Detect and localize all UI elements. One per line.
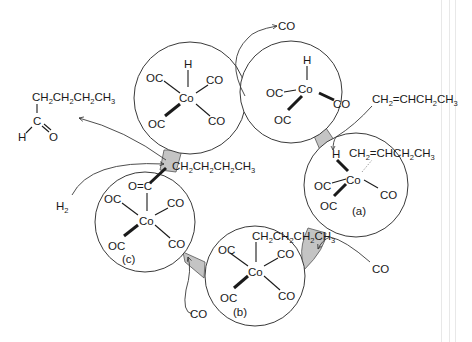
- catalytic-cycle-diagram: H OC CO OC CO Co H OC CO OC Co H CH2=CHC…: [0, 0, 472, 342]
- ligand-co: OC: [274, 114, 291, 126]
- ligand-co: OC: [148, 118, 165, 130]
- cobalt-center: Co: [179, 92, 194, 104]
- ligand-co: CO: [167, 197, 184, 209]
- cobalt-center: Co: [139, 215, 154, 227]
- product-chain: CH2CH2CH2CH3: [32, 91, 115, 106]
- product-carbon: C: [33, 115, 41, 127]
- cobalt-center: Co: [346, 174, 361, 186]
- complex-hco3-circle: [240, 41, 342, 143]
- ligand-co: CO: [206, 74, 223, 86]
- ligand-co: OC: [104, 193, 121, 205]
- complex-label-a: (a): [352, 205, 366, 217]
- ligand-co: OC: [266, 87, 283, 99]
- product-oxygen: O: [49, 131, 58, 143]
- ligand-co: OC: [220, 292, 237, 304]
- acyl-chain: CH2CH2CH2CH3: [172, 160, 255, 175]
- product-aldehyde: CH2CH2CH2CH3 C H O: [18, 91, 115, 143]
- cobalt-center: Co: [298, 83, 313, 95]
- co-released-label: CO: [278, 20, 295, 32]
- connector-b-c: [183, 252, 205, 278]
- co-added-right-label: CO: [372, 263, 389, 275]
- ligand-co: OC: [218, 244, 235, 256]
- ligand-co: CO: [278, 290, 295, 302]
- ligand-co: CO: [168, 238, 185, 250]
- ligand-co: CO: [380, 189, 397, 201]
- acyl-carbonyl: O=C: [128, 180, 152, 192]
- ligand-co: OC: [320, 200, 337, 212]
- ligand-co: CO: [277, 248, 294, 260]
- h2-label: H2: [56, 200, 68, 215]
- product-hydrogen: H: [18, 131, 26, 143]
- ligand-h: H: [184, 58, 192, 70]
- ligand-co: OC: [146, 72, 163, 84]
- ligand-co: OC: [314, 180, 331, 192]
- ligand-co: CO: [333, 98, 350, 110]
- ligand-co: OC: [108, 240, 125, 252]
- complex-label-c: (c): [122, 253, 136, 265]
- complex-label-b: (b): [233, 306, 247, 318]
- cobalt-center: Co: [248, 266, 263, 278]
- butene-label: CH2=CHCH2CH3: [372, 93, 458, 108]
- co-added-bottom-label: CO: [190, 308, 207, 320]
- ligand-h: H: [303, 54, 311, 66]
- ligand-co: CO: [208, 115, 225, 127]
